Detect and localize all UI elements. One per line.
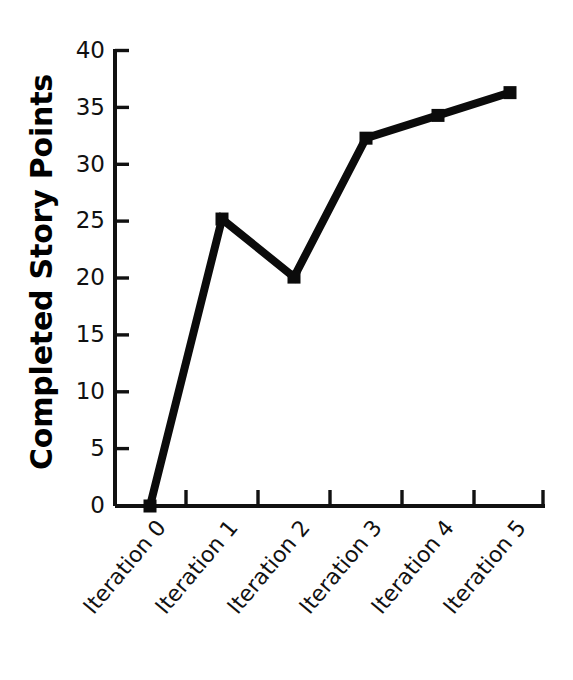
y-tick-label-20: 20 xyxy=(76,264,105,290)
y-tick-label-40: 40 xyxy=(76,37,105,63)
data-point-marker xyxy=(144,500,157,513)
data-point-marker xyxy=(360,132,373,145)
y-axis-title: Completed Story Points xyxy=(24,74,59,470)
y-tick-label-0: 0 xyxy=(90,492,105,518)
data-point-marker xyxy=(432,109,445,122)
data-point-marker xyxy=(216,213,229,226)
y-tick-label-5: 5 xyxy=(90,435,105,461)
y-tick-label-25: 25 xyxy=(76,207,105,233)
data-point-marker xyxy=(288,271,301,284)
line-chart-canvas: 40 35 30 25 20 15 10 5 0 Completed Story… xyxy=(0,0,573,680)
chart-container: 40 35 30 25 20 15 10 5 0 Completed Story… xyxy=(0,0,573,680)
y-tick-label-30: 30 xyxy=(76,151,105,177)
data-point-marker xyxy=(504,86,517,99)
y-tick-label-10: 10 xyxy=(76,378,105,404)
y-tick-label-15: 15 xyxy=(76,321,105,347)
y-tick-label-35: 35 xyxy=(76,94,105,120)
